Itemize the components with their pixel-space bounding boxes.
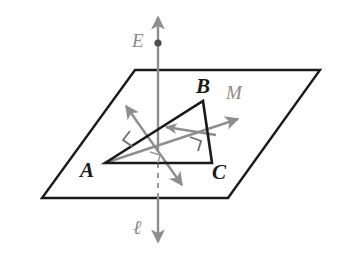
- geometry-canvas: [0, 0, 344, 256]
- label-vertex-b: B: [196, 76, 210, 97]
- point-e-dot: [154, 39, 161, 46]
- label-point-e: E: [132, 31, 144, 50]
- label-line-m: M: [226, 83, 242, 102]
- right-angle-mark-bc: [190, 137, 201, 151]
- right-angle-mark-ab: [123, 131, 133, 147]
- label-vertex-c: C: [212, 162, 226, 183]
- geometry-diagram: A B C E M ℓ: [0, 0, 344, 256]
- label-line-l: ℓ: [133, 217, 141, 237]
- label-vertex-a: A: [80, 160, 94, 181]
